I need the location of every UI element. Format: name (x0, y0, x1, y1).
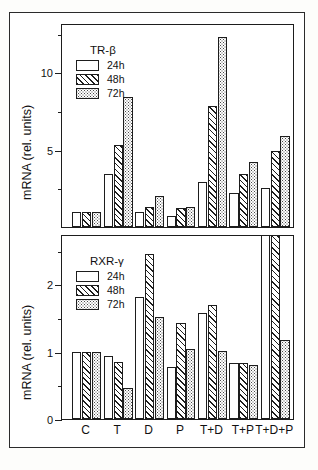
bar-T-D-24h (198, 182, 207, 227)
bar-T-48h (114, 145, 123, 227)
y-tick-major (55, 73, 62, 74)
y-tick-minor (58, 35, 62, 36)
bar-T-24h (104, 356, 113, 419)
bar-T-P-48h (239, 174, 248, 227)
panel-a-y-axis-label: mRNA (rel. units) (20, 105, 34, 200)
legend-item-48h: 48h (76, 73, 125, 85)
panel-a-y-axis: 510 (61, 24, 62, 228)
y-tick-label: 0 (47, 414, 53, 426)
legend-item-72h: 72h (76, 87, 125, 99)
legend-item-24h: 24h (76, 59, 125, 71)
y-tick-major (55, 420, 62, 421)
bar-C-24h (72, 212, 81, 227)
bar-T-D-24h (198, 313, 207, 419)
legend-label-24h: 24h (107, 270, 125, 282)
y-tick-minor (58, 112, 62, 113)
bar-D-48h (145, 207, 154, 227)
bar-T-P-24h (229, 193, 238, 227)
y-tick-label: 2 (47, 279, 53, 291)
bar-D-24h (135, 212, 144, 227)
x-axis-label-T: T (113, 423, 120, 437)
bar-C-72h (92, 212, 101, 227)
bar-T-D-72h (218, 37, 227, 227)
y-tick-label: 1 (47, 347, 53, 359)
bar-P-24h (167, 367, 176, 419)
bar-P-48h (176, 323, 185, 419)
y-tick-minor (58, 386, 62, 387)
legend-swatch-dots-icon (76, 88, 99, 99)
panel-a-legend-title: TR-β (90, 44, 125, 56)
legend-swatch-hatch-icon (76, 74, 99, 85)
legend-swatch-hatch-icon (76, 285, 99, 296)
y-tick-label: 10 (41, 67, 53, 79)
y-tick-major (55, 353, 62, 354)
bar-T-72h (123, 388, 132, 419)
legend-label-72h: 72h (107, 87, 125, 99)
legend-item-72h: 72h (76, 298, 125, 310)
bar-T-48h (114, 362, 123, 419)
bar-T-P-72h (249, 162, 258, 227)
bar-T-D-P-24h (261, 235, 270, 419)
y-tick-minor (58, 189, 62, 190)
bar-T-D-P-48h (271, 235, 280, 419)
panel-b-y-axis: 012 (61, 235, 62, 420)
x-axis-label-P: P (176, 423, 184, 437)
panel-b-legend: RXR-γ 24h 48h 72h (76, 255, 125, 312)
legend-label-48h: 48h (107, 73, 125, 85)
bar-D-72h (155, 317, 164, 419)
bar-T-D-P-24h (261, 188, 270, 227)
bar-T-24h (104, 174, 113, 227)
bar-C-24h (72, 352, 81, 419)
y-tick-major (55, 285, 62, 286)
x-axis-label-T-D-P: T+D+P (255, 423, 293, 437)
bar-T-D-P-48h (271, 151, 280, 227)
bar-T-D-P-72h (280, 136, 289, 227)
y-tick-major (55, 151, 62, 152)
y-tick-minor (58, 319, 62, 320)
legend-item-24h: 24h (76, 270, 125, 282)
x-axis-label-C: C (81, 423, 90, 437)
legend-swatch-open-icon (76, 60, 99, 71)
bar-T-D-48h (208, 106, 217, 227)
y-tick-label: 5 (47, 145, 53, 157)
bar-P-48h (176, 208, 185, 227)
bar-C-72h (92, 352, 101, 419)
bar-T-D-48h (208, 305, 217, 419)
x-axis-label-T-P: T+P (232, 423, 254, 437)
bar-T-P-24h (229, 363, 238, 419)
bar-D-24h (135, 297, 144, 419)
x-axis-label-D: D (144, 423, 153, 437)
bar-T-D-72h (218, 351, 227, 419)
bar-P-72h (186, 349, 195, 419)
bar-P-24h (167, 216, 176, 227)
bar-P-72h (186, 207, 195, 227)
panel-b-y-axis-label: mRNA (rel. units) (20, 305, 34, 400)
figure-root: A 510 mRNA (rel. units) TR-β 24h 48h 72h… (0, 0, 318, 470)
bar-D-48h (145, 254, 154, 419)
legend-swatch-dots-icon (76, 299, 99, 310)
bar-C-48h (82, 212, 91, 227)
bar-T-D-P-72h (280, 340, 289, 419)
legend-swatch-open-icon (76, 271, 99, 282)
legend-label-48h: 48h (107, 284, 125, 296)
bar-T-P-48h (239, 363, 248, 420)
bar-D-72h (155, 196, 164, 227)
legend-label-24h: 24h (107, 59, 125, 71)
panel-a-legend: TR-β 24h 48h 72h (76, 44, 125, 101)
x-axis-label-T-D: T+D (200, 423, 223, 437)
y-tick-minor (58, 252, 62, 253)
legend-label-72h: 72h (107, 298, 125, 310)
legend-item-48h: 48h (76, 284, 125, 296)
bar-T-P-72h (249, 365, 258, 419)
bar-C-48h (82, 352, 91, 419)
x-axis-labels: CTDPT+DT+PT+D+P (61, 423, 294, 443)
bar-T-72h (123, 97, 132, 227)
panel-b-legend-title: RXR-γ (90, 255, 125, 267)
